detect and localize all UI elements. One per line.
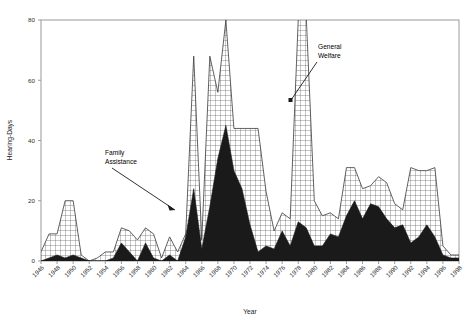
x-tick-label: 1976 xyxy=(272,263,287,278)
area-chart-svg: 020406080 194619481950195219541956195819… xyxy=(0,0,472,323)
x-tick-label: 1998 xyxy=(449,263,464,278)
cropped-title-fragment xyxy=(12,0,352,8)
annotation-family-assistance-line2: Assistance xyxy=(105,158,137,165)
x-tick-label: 1996 xyxy=(432,263,447,278)
x-tick-label: 1956 xyxy=(111,263,126,278)
x-tick-label: 1992 xyxy=(400,263,415,278)
x-tick-label: 1952 xyxy=(79,263,94,278)
x-axis-title: Year xyxy=(243,308,257,315)
y-tick-label: 40 xyxy=(28,137,35,144)
x-tick-label: 1974 xyxy=(256,263,271,278)
x-tick-label: 1950 xyxy=(63,263,78,278)
annotation-general-welfare-arrowhead xyxy=(289,98,293,102)
x-tick-label: 1948 xyxy=(47,263,62,278)
x-tick-label: 1970 xyxy=(223,263,238,278)
x-tick-label: 1990 xyxy=(384,263,399,278)
y-tick-label: 0 xyxy=(32,257,36,264)
x-tick-label: 1954 xyxy=(95,263,110,278)
x-tick-label: 1960 xyxy=(143,263,158,278)
x-tick-label: 1968 xyxy=(207,263,222,278)
x-tick-label: 1994 xyxy=(416,263,431,278)
y-axis: 020406080 xyxy=(28,16,41,264)
x-tick-label: 1966 xyxy=(191,263,206,278)
x-tick-label: 1986 xyxy=(352,263,367,278)
x-tick-label: 1988 xyxy=(368,263,383,278)
x-tick-label: 1972 xyxy=(240,263,255,278)
y-tick-label: 60 xyxy=(28,77,35,84)
x-tick-label: 1946 xyxy=(31,263,46,278)
annotation-general-welfare-line1: General xyxy=(318,43,342,50)
y-tick-label: 80 xyxy=(28,16,35,23)
x-tick-label: 1982 xyxy=(320,263,335,278)
x-tick-label: 1962 xyxy=(159,263,174,278)
x-tick-label: 1958 xyxy=(127,263,142,278)
y-axis-title: Hearing-Days xyxy=(6,119,14,160)
annotation-general-welfare-line2: Welfare xyxy=(318,52,341,59)
chart-figure: 020406080 194619481950195219541956195819… xyxy=(0,0,472,323)
x-axis: 1946194819501952195419561958196019621964… xyxy=(31,261,464,278)
x-tick-label: 1984 xyxy=(336,263,351,278)
x-tick-label: 1964 xyxy=(175,263,190,278)
x-tick-label: 1978 xyxy=(288,263,303,278)
annotation-family-assistance-line1: Family xyxy=(105,149,125,157)
x-tick-label: 1980 xyxy=(304,263,319,278)
y-tick-label: 20 xyxy=(28,197,35,204)
